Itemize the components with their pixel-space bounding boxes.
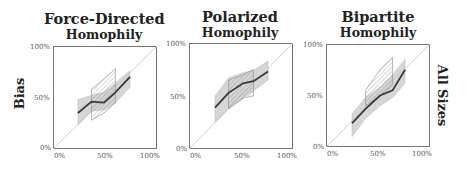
chart-plot [0,0,466,170]
